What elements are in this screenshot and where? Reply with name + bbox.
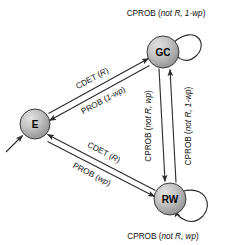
state-node-rw-label: RW	[162, 194, 179, 205]
label-gc-self-tail: )	[203, 9, 206, 18]
label-e-to-gc: CDET (R)	[74, 65, 110, 90]
label-rw-self-italic: not R, wp	[161, 232, 196, 241]
label-gc-to-e-plain: PROB (	[79, 94, 108, 116]
state-diagram-canvas: E GC RW CPROB (not R, 1-wp) CPROB (not R…	[0, 0, 239, 245]
state-node-e-label: E	[32, 119, 39, 130]
label-rw-to-gc-tail: )	[184, 86, 193, 89]
label-gc-self-plain: CPROB (	[127, 9, 161, 18]
state-node-e[interactable]: E	[20, 109, 50, 139]
state-node-gc-label: GC	[156, 47, 171, 58]
edge-rw-to-gc	[170, 70, 176, 183]
label-rw-self-plain: CPROB (	[127, 232, 161, 241]
label-gc-to-rw-plain: CPROB (	[144, 127, 153, 161]
label-rw-to-gc-italic: not R, 1-wp	[184, 89, 193, 131]
label-gc-self: CPROB (not R, 1-wp)	[127, 9, 206, 18]
state-node-gc[interactable]: GC	[147, 36, 179, 68]
state-node-rw[interactable]: RW	[154, 183, 186, 215]
label-e-to-rw-plain: PROB (	[72, 160, 101, 181]
state-diagram-svg: E GC RW CPROB (not R, 1-wp) CPROB (not R…	[0, 0, 239, 245]
edge-gc-to-rw	[159, 69, 165, 182]
label-rw-to-e: CDET (R)	[86, 140, 122, 165]
label-gc-to-rw-tail: )	[144, 90, 153, 93]
label-e-to-gc-plain: CDET (	[74, 69, 102, 90]
label-gc-self-italic: not R, 1-wp	[161, 9, 203, 18]
label-rw-to-gc-plain: CPROB (	[184, 131, 193, 165]
label-rw-to-gc: CPROB (not R, 1-wp)	[184, 86, 193, 165]
initial-state-arrow	[6, 136, 23, 153]
label-rw-self: CPROB (not R, wp)	[127, 232, 199, 241]
label-rw-self-tail: )	[196, 232, 199, 241]
label-gc-to-rw-italic: not R, wp	[144, 93, 153, 128]
label-gc-to-rw: CPROB (not R, wp)	[144, 90, 153, 162]
